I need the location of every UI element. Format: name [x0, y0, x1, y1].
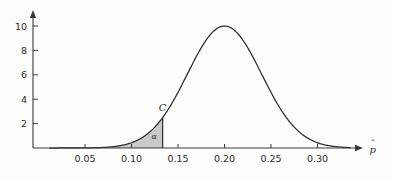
x-tick-label: 0.30 [307, 153, 328, 164]
y-tick-group: 246810 [15, 21, 38, 130]
alpha-label: α [152, 132, 158, 141]
x-tick-label: 0.15 [167, 153, 188, 164]
y-tick-label: 8 [21, 45, 27, 56]
x-axis-arrow-icon [355, 145, 363, 151]
x-tick-label: 0.25 [260, 153, 281, 164]
p-hat-letter: p [370, 144, 377, 155]
y-tick-label: 10 [15, 21, 27, 32]
distribution-figure: 246810 0.050.100.150.200.250.30 ˆ p C α [0, 0, 394, 179]
x-tick-label: 0.05 [74, 153, 95, 164]
x-axis-title: ˆ p [370, 138, 377, 155]
y-axis-arrow-icon [30, 10, 36, 18]
x-tick-label: 0.20 [214, 153, 235, 164]
y-tick-label: 6 [21, 69, 27, 80]
alpha-shaded-region [50, 118, 163, 148]
x-tick-label: 0.10 [121, 153, 142, 164]
y-tick-label: 2 [21, 118, 27, 129]
normal-density-curve [50, 26, 350, 148]
y-tick-label: 4 [21, 94, 27, 105]
x-axis: 0.050.100.150.200.250.30 [33, 144, 363, 164]
critical-value-label: C [159, 102, 167, 113]
y-axis: 246810 [15, 10, 38, 148]
normal-distribution-chart: 246810 0.050.100.150.200.250.30 ˆ p C α [0, 0, 394, 179]
